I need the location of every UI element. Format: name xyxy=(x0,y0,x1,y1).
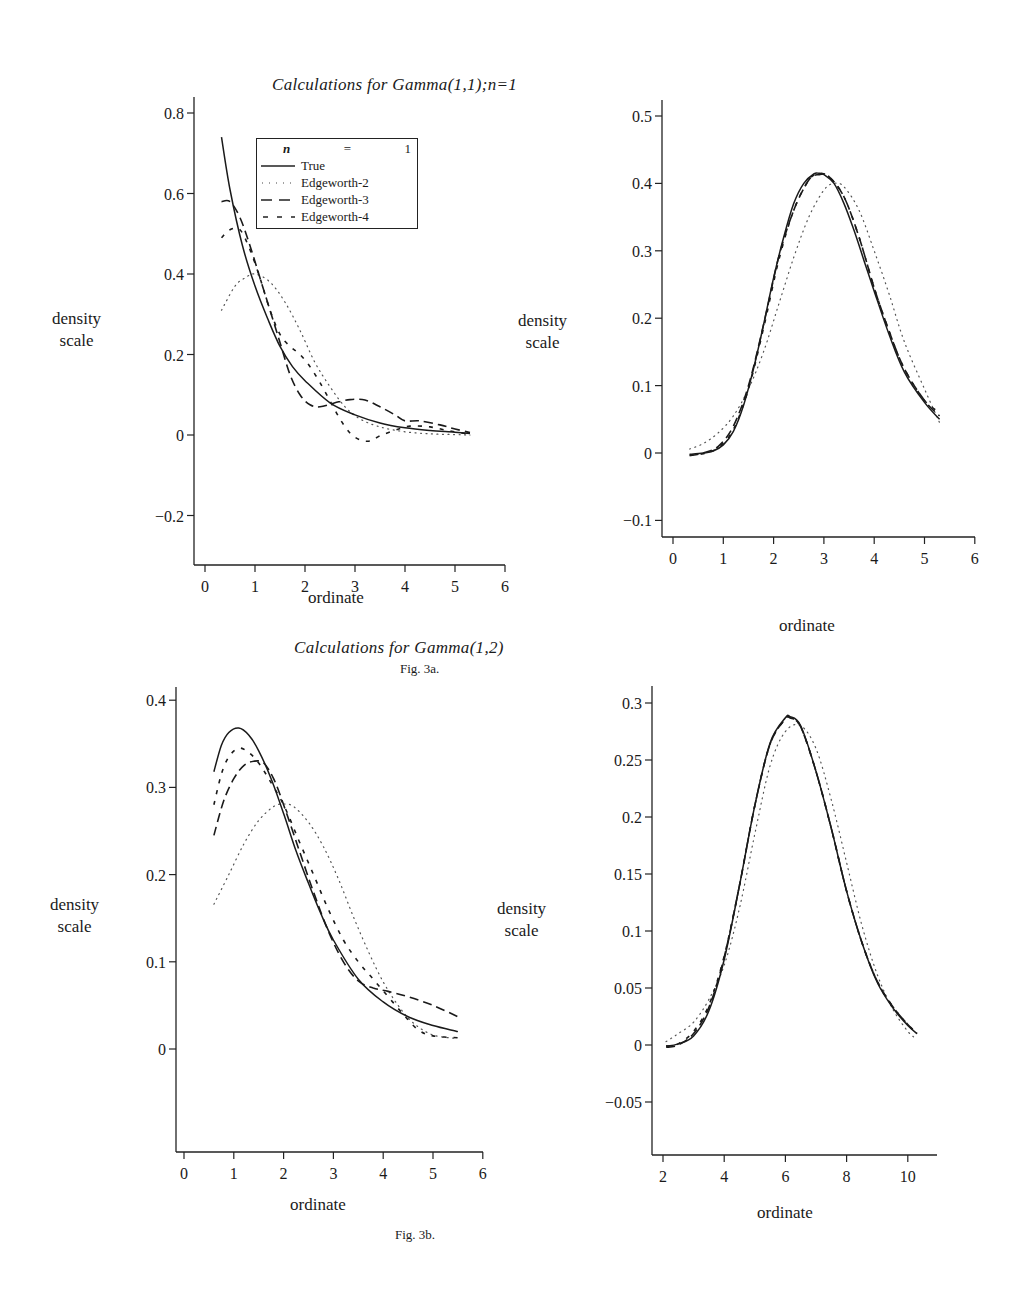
x-tick-label: 3 xyxy=(820,550,828,567)
long-dash-line-swatch-icon xyxy=(261,197,295,203)
chart-panel-4: −0.0500.050.10.150.20.250.3246810 xyxy=(605,686,937,1185)
x-tick-label: 2 xyxy=(770,550,778,567)
y-tick-label: 0 xyxy=(176,427,184,444)
series-edgeworth-2 xyxy=(690,183,940,449)
y-axis-label-panel3: densityscale xyxy=(50,894,99,938)
y-axis-label-panel1: densityscale xyxy=(52,308,101,352)
series-edgeworth-3 xyxy=(690,174,940,456)
series-edgeworth-2 xyxy=(666,725,917,1042)
x-tick-label: 1 xyxy=(230,1165,238,1182)
legend-entry-edgeworth-4: Edgeworth-4 xyxy=(261,208,411,225)
series-edgeworth-3 xyxy=(222,200,471,432)
x-tick-label: 2 xyxy=(280,1165,288,1182)
x-tick-label: 6 xyxy=(501,578,509,595)
y-tick-label: 0.4 xyxy=(146,692,166,709)
legend-label: Edgeworth-4 xyxy=(301,209,369,225)
series-edgeworth-3 xyxy=(214,761,458,1017)
y-tick-label: 0.8 xyxy=(164,105,184,122)
series-edgeworth-4 xyxy=(690,174,940,455)
y-tick-label: 0.1 xyxy=(632,378,652,395)
figure-canvas: −0.200.20.40.60.80123456−0.100.10.20.30.… xyxy=(0,0,1024,1291)
y-tick-label: 0.4 xyxy=(632,175,652,192)
x-tick-label: 5 xyxy=(451,578,459,595)
legend-entry-edgeworth-3: Edgeworth-3 xyxy=(261,191,411,208)
x-tick-label: 3 xyxy=(329,1165,337,1182)
x-tick-label: 4 xyxy=(401,578,409,595)
y-tick-label: −0.1 xyxy=(623,512,652,529)
y-tick-label: 0.05 xyxy=(614,980,642,997)
y-tick-label: 0.1 xyxy=(146,954,166,971)
y-tick-label: −0.2 xyxy=(155,508,184,525)
legend: n = 1 True Edgeworth-2 Edgeworth-3 Edgew… xyxy=(256,138,418,229)
y-tick-label: 0.2 xyxy=(622,809,642,826)
x-axis-label-panel4: ordinate xyxy=(757,1203,813,1223)
x-tick-label: 6 xyxy=(781,1168,789,1185)
y-tick-label: 0 xyxy=(158,1041,166,1058)
y-tick-label: 0.2 xyxy=(632,310,652,327)
chart-panel-2: −0.100.10.20.30.40.50123456 xyxy=(623,100,979,567)
series-edgeworth-3 xyxy=(666,716,917,1047)
x-tick-label: 0 xyxy=(180,1165,188,1182)
legend-header-var: n xyxy=(283,141,290,157)
figure-title-top: Calculations for Gamma(1,1);n=1 xyxy=(272,75,517,95)
x-tick-label: 1 xyxy=(719,550,727,567)
legend-entry-true: True xyxy=(261,157,411,174)
y-tick-label: 0.3 xyxy=(632,243,652,260)
short-dash-line-swatch-icon xyxy=(261,214,295,220)
series-edgeworth-2 xyxy=(214,804,458,1039)
y-axis-label-panel2: densityscale xyxy=(518,310,567,354)
series-edgeworth-4 xyxy=(214,748,458,1038)
series-true xyxy=(666,715,917,1046)
y-tick-label: 0.4 xyxy=(164,266,184,283)
x-tick-label: 4 xyxy=(870,550,878,567)
legend-label: Edgeworth-2 xyxy=(301,175,369,191)
y-tick-label: 0.5 xyxy=(632,108,652,125)
x-tick-label: 5 xyxy=(921,550,929,567)
y-tick-label: 0.15 xyxy=(614,866,642,883)
x-tick-label: 0 xyxy=(201,578,209,595)
x-tick-label: 2 xyxy=(659,1168,667,1185)
x-axis-label-panel2: ordinate xyxy=(779,616,835,636)
y-tick-label: 0.2 xyxy=(164,347,184,364)
chart-panel-3: 00.10.20.30.40123456 xyxy=(146,687,487,1182)
x-axis-label-panel3: ordinate xyxy=(290,1195,346,1215)
legend-header: n = 1 xyxy=(261,141,411,157)
series-edgeworth-4 xyxy=(222,228,471,441)
series-edgeworth-4 xyxy=(666,716,917,1046)
y-tick-label: 0.2 xyxy=(146,867,166,884)
x-tick-label: 6 xyxy=(971,550,979,567)
x-tick-label: 4 xyxy=(720,1168,728,1185)
fig-label-3a: Fig. 3a. xyxy=(400,661,439,677)
x-tick-label: 1 xyxy=(251,578,259,595)
solid-line-swatch-icon xyxy=(261,163,295,169)
x-tick-label: 8 xyxy=(843,1168,851,1185)
x-axis-label-panel1: ordinate xyxy=(308,588,364,608)
y-tick-label: 0.1 xyxy=(622,923,642,940)
series-true xyxy=(690,173,940,454)
y-tick-label: 0.3 xyxy=(146,779,166,796)
legend-header-value: 1 xyxy=(404,141,411,157)
x-tick-label: 5 xyxy=(429,1165,437,1182)
y-tick-label: 0 xyxy=(644,445,652,462)
x-tick-label: 6 xyxy=(479,1165,487,1182)
legend-label: True xyxy=(301,158,325,174)
dotted-line-swatch-icon xyxy=(261,180,295,186)
fig-label-3b: Fig. 3b. xyxy=(395,1227,435,1243)
y-tick-label: 0.25 xyxy=(614,752,642,769)
y-axis-label-panel4: densityscale xyxy=(497,898,546,942)
legend-label: Edgeworth-3 xyxy=(301,192,369,208)
series-true xyxy=(214,728,458,1032)
y-tick-label: 0.3 xyxy=(622,695,642,712)
y-tick-label: 0.6 xyxy=(164,186,184,203)
x-tick-label: 10 xyxy=(900,1168,916,1185)
legend-entry-edgeworth-2: Edgeworth-2 xyxy=(261,174,411,191)
figure-title-bottom: Calculations for Gamma(1,2) xyxy=(294,638,504,658)
x-tick-label: 4 xyxy=(379,1165,387,1182)
y-tick-label: 0 xyxy=(634,1037,642,1054)
legend-header-eq: = xyxy=(344,141,351,157)
y-tick-label: −0.05 xyxy=(605,1094,642,1111)
x-tick-label: 0 xyxy=(669,550,677,567)
